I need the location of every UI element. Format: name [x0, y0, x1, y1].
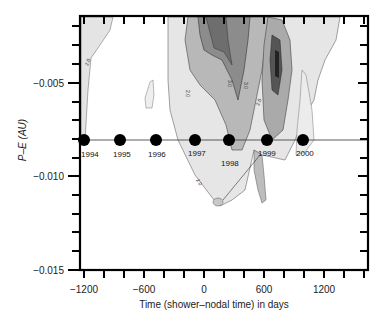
year-label: 1997	[188, 149, 206, 158]
year-label: 1998	[221, 159, 239, 168]
marker-1996	[150, 134, 162, 146]
svg-text:−0.005: −0.005	[33, 78, 64, 89]
year-label: 1994	[81, 150, 99, 159]
svg-text:3.0: 3.0	[243, 82, 249, 89]
x-tick-labels: −1200 −600 0 600 1200	[70, 284, 336, 295]
x-axis-title: Time (shower–nodal time) in days	[139, 299, 289, 310]
marker-1995	[114, 134, 126, 146]
svg-text:2.0: 2.0	[185, 90, 191, 97]
contour-chart: 2.0 2.0 2.0 3.0 3.0 2.0 1994 1995 1996 1…	[0, 0, 382, 322]
svg-text:3.0: 3.0	[227, 80, 233, 87]
marker-2000	[297, 134, 309, 146]
svg-text:−1200: −1200	[70, 284, 99, 295]
svg-text:−600: −600	[133, 284, 156, 295]
year-label: 1996	[148, 150, 166, 159]
year-label: 1999	[258, 149, 276, 158]
y-tick-labels: −0.005 −0.010 −0.015	[33, 78, 64, 276]
marker-1997	[189, 134, 201, 146]
svg-text:1200: 1200	[313, 284, 336, 295]
year-label: 1995	[113, 150, 131, 159]
y-axis-title: P–E (AU)	[17, 119, 28, 161]
svg-text:600: 600	[256, 284, 273, 295]
marker-1999	[261, 134, 273, 146]
marker-1998	[223, 134, 235, 146]
year-label: 2000	[296, 149, 314, 158]
svg-text:0: 0	[201, 284, 207, 295]
svg-text:−0.010: −0.010	[33, 171, 64, 182]
svg-text:−0.015: −0.015	[33, 265, 64, 276]
